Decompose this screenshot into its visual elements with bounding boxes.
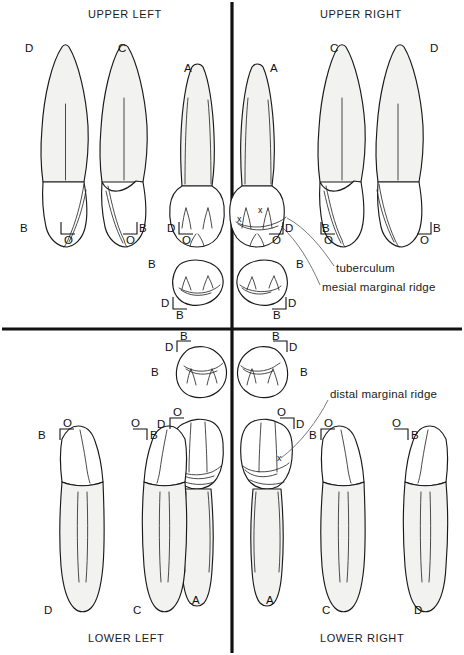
label-lr-facial-d-apex: D bbox=[414, 604, 422, 616]
label-lr-facial-c-apex: C bbox=[322, 604, 330, 616]
label-ul-incisal-b-below: B bbox=[176, 309, 184, 321]
surface-code-brackets bbox=[60, 222, 431, 440]
label-ll-incisal-d: D bbox=[165, 341, 173, 353]
label-ur-facial-d-b: B bbox=[433, 222, 441, 234]
label-ul-facial-c-apex: C bbox=[118, 42, 126, 54]
tooth-ll-incisal bbox=[176, 347, 226, 398]
tooth-lr-facial-c bbox=[321, 426, 365, 612]
dental-chart-figure: .ol{fill:none;stroke:#1a1a1a;stroke-widt… bbox=[0, 0, 464, 655]
label-ur-lingual-o: O bbox=[272, 234, 281, 246]
label-ul-lingual-a: A bbox=[184, 62, 192, 74]
tooth-ll-facial-d bbox=[60, 426, 104, 612]
label-ll-lingual-d: D bbox=[157, 418, 165, 430]
label-ur-lingual-d: D bbox=[285, 222, 293, 234]
label-ul-facial-d-b: B bbox=[20, 222, 28, 234]
label-ll-lingual-o: O bbox=[173, 406, 182, 418]
label-ul-facial-c-b: B bbox=[139, 222, 147, 234]
label-lr-incisal-b-right: B bbox=[300, 366, 308, 378]
quadrant-title-upper-right: UPPER RIGHT bbox=[320, 8, 402, 20]
label-ul-lingual-o: O bbox=[182, 234, 191, 246]
label-ul-facial-d-o: O bbox=[64, 234, 73, 246]
x-marker-mesial-marginal-ridge: x bbox=[237, 214, 242, 224]
label-ll-facial-c-b: B bbox=[150, 429, 158, 441]
label-ll-facial-d-o: O bbox=[63, 417, 72, 429]
label-ll-facial-d-b: B bbox=[38, 429, 46, 441]
callout-distal-marginal-ridge: distal marginal ridge bbox=[330, 388, 437, 400]
label-lr-lingual-d: D bbox=[296, 418, 304, 430]
label-ur-lingual-a: A bbox=[270, 62, 278, 74]
callout-tuberculum: tuberculum bbox=[336, 262, 395, 274]
label-ur-facial-c-apex: C bbox=[330, 42, 338, 54]
label-ur-facial-d-o: O bbox=[420, 234, 429, 246]
label-lr-facial-c-b: B bbox=[309, 429, 317, 441]
label-lr-facial-c-o: O bbox=[324, 417, 333, 429]
label-ur-facial-c-o: O bbox=[324, 234, 333, 246]
label-ur-incisal-b-right: B bbox=[296, 258, 304, 270]
tooth-illustrations-canvas: .ol{fill:none;stroke:#1a1a1a;stroke-widt… bbox=[0, 0, 464, 655]
label-ul-lingual-d: D bbox=[167, 222, 175, 234]
label-ll-facial-c-apex: C bbox=[133, 604, 141, 616]
label-ul-facial-d-apex: D bbox=[25, 42, 33, 54]
tooth-lr-lingual bbox=[241, 419, 293, 606]
label-lr-incisal-b-above: B bbox=[272, 330, 280, 342]
label-lr-lingual-o: O bbox=[277, 406, 286, 418]
label-lr-lingual-a: A bbox=[266, 594, 274, 606]
label-ul-incisal-b-left: B bbox=[148, 258, 156, 270]
label-lr-facial-d-o: O bbox=[392, 417, 401, 429]
label-ur-incisal-b-below: B bbox=[273, 309, 281, 321]
tooth-lr-incisal bbox=[237, 347, 287, 398]
tooth-ll-facial-c bbox=[143, 426, 187, 612]
tooth-lr-facial-d bbox=[404, 426, 448, 612]
label-ll-facial-c-o: O bbox=[131, 417, 140, 429]
tooth-ul-facial-c bbox=[100, 45, 147, 247]
quadrant-title-lower-right: LOWER RIGHT bbox=[320, 632, 404, 644]
label-ll-incisal-b-above: B bbox=[180, 330, 188, 342]
x-marker-tuberculum: x bbox=[258, 205, 263, 215]
tooth-ur-incisal bbox=[237, 260, 288, 305]
tooth-ur-facial-d bbox=[376, 45, 423, 247]
label-ul-facial-c-o: O bbox=[126, 234, 135, 246]
label-ul-incisal-d: D bbox=[161, 297, 169, 309]
tooth-ul-lingual bbox=[170, 64, 224, 247]
label-ll-incisal-b-left: B bbox=[151, 366, 159, 378]
callout-mesial-marginal-ridge: mesial marginal ridge bbox=[322, 281, 436, 293]
label-ur-facial-c-b: B bbox=[322, 222, 330, 234]
quadrant-title-upper-left: UPPER LEFT bbox=[88, 8, 162, 20]
x-marker-distal-marginal-ridge: x bbox=[277, 453, 282, 463]
label-ll-lingual-a: A bbox=[192, 594, 200, 606]
label-lr-incisal-d: D bbox=[289, 341, 297, 353]
quadrant-title-lower-left: LOWER LEFT bbox=[88, 632, 164, 644]
label-ll-facial-d-apex: D bbox=[44, 604, 52, 616]
tooth-ul-incisal bbox=[173, 260, 224, 305]
label-ur-facial-d-apex: D bbox=[430, 42, 438, 54]
tooth-ul-facial-d bbox=[41, 45, 88, 247]
label-lr-facial-d-b: B bbox=[411, 429, 419, 441]
label-ur-incisal-d: D bbox=[288, 297, 296, 309]
tooth-ur-facial-c bbox=[318, 45, 365, 247]
